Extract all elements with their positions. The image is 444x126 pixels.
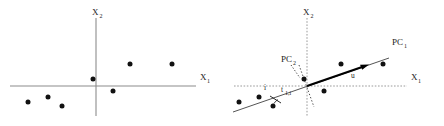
- data-point: [60, 104, 65, 109]
- u-vector-label: u: [351, 71, 355, 80]
- data-point: [257, 95, 262, 100]
- pca-figure-svg: X 2 X 1: [0, 0, 444, 126]
- pca-panel: X 2 X 1 PC 1 PC: [233, 7, 421, 116]
- data-point: [302, 77, 307, 82]
- data-point: [111, 89, 116, 94]
- pc1-label-text: PC: [392, 37, 403, 47]
- x1-axis-label-right-text: X: [411, 72, 418, 82]
- x1-axis-label-left-sub: 1: [207, 78, 210, 84]
- data-point: [381, 62, 386, 67]
- raw-data-panel: X 2 X 1: [10, 7, 210, 116]
- pc1-label: PC 1: [392, 37, 407, 49]
- u-vector-shaft: [307, 66, 365, 86]
- data-point: [170, 62, 175, 67]
- x1-axis-label-right-sub: 1: [418, 78, 421, 84]
- point-i-label: i: [264, 83, 266, 92]
- data-point: [128, 62, 133, 67]
- score-label: t 1,i: [281, 85, 292, 96]
- raw-data-points: [26, 62, 175, 109]
- pc2-label: PC 2: [281, 54, 300, 78]
- x2-axis-label-right-sub: 2: [311, 13, 314, 19]
- data-point: [237, 100, 242, 105]
- pc1-label-sub: 1: [404, 43, 407, 49]
- pc2-label-text: PC: [281, 54, 292, 64]
- x1-axis-label-left: X 1: [200, 72, 210, 84]
- data-point: [271, 104, 276, 109]
- data-point: [91, 77, 96, 82]
- pca-figure: X 2 X 1: [0, 0, 444, 126]
- pc2-label-sub: 2: [293, 60, 296, 66]
- data-point: [339, 62, 344, 67]
- x1-axis-label-right: X 1: [411, 72, 421, 84]
- x2-axis-label-right-text: X: [303, 7, 310, 17]
- pc2-leader-line: [291, 65, 300, 78]
- u-vector: [307, 65, 369, 86]
- data-point: [46, 95, 51, 100]
- x1-axis-label-left-text: X: [200, 72, 207, 82]
- x2-axis-label-left-sub: 2: [100, 13, 103, 19]
- data-point: [26, 100, 31, 105]
- x2-axis-label-right: X 2: [303, 7, 314, 19]
- score-label-sub: 1,i: [285, 90, 292, 96]
- u-vector-arrowhead: [360, 65, 369, 70]
- data-point: [322, 89, 327, 94]
- x2-axis-label-left: X 2: [92, 7, 103, 19]
- x2-axis-label-left-text: X: [92, 7, 99, 17]
